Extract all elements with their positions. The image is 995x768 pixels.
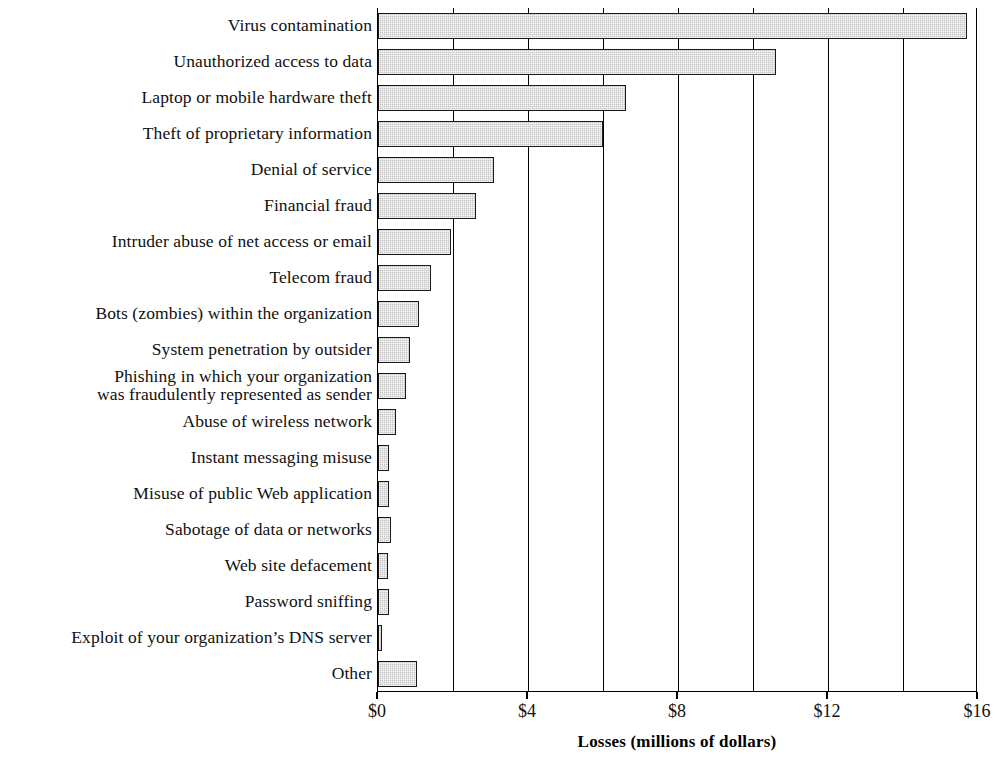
category-label: Bots (zombies) within the organization bbox=[0, 304, 372, 323]
bar bbox=[378, 661, 417, 687]
bar bbox=[378, 229, 451, 255]
category-label: Virus contamination bbox=[0, 16, 372, 35]
category-label: Sabotage of data or networks bbox=[0, 520, 372, 539]
x-tick bbox=[526, 692, 527, 699]
bar bbox=[378, 589, 389, 615]
bar bbox=[378, 193, 476, 219]
category-label: Unauthorized access to data bbox=[0, 52, 372, 71]
x-tick-label: $4 bbox=[518, 701, 536, 722]
category-label: Denial of service bbox=[0, 160, 372, 179]
category-label: Laptop or mobile hardware theft bbox=[0, 88, 372, 107]
category-label: Telecom fraud bbox=[0, 268, 372, 287]
category-label: Phishing in which your organization was … bbox=[0, 367, 372, 404]
x-tick-label: $12 bbox=[814, 701, 841, 722]
category-label: Password sniffing bbox=[0, 592, 372, 611]
category-label: Abuse of wireless network bbox=[0, 412, 372, 431]
category-label: Theft of proprietary information bbox=[0, 124, 372, 143]
x-axis-title: Losses (millions of dollars) bbox=[377, 732, 977, 752]
bar bbox=[378, 157, 494, 183]
x-tick-label: $16 bbox=[964, 701, 991, 722]
bar bbox=[378, 337, 410, 363]
x-tick bbox=[976, 692, 977, 699]
x-tick bbox=[826, 692, 827, 699]
bar bbox=[378, 13, 967, 39]
category-label: Misuse of public Web application bbox=[0, 484, 372, 503]
bar-chart: Virus contaminationUnauthorized access t… bbox=[0, 0, 995, 768]
bar bbox=[378, 265, 431, 291]
bar bbox=[378, 85, 626, 111]
bar bbox=[378, 409, 396, 435]
x-tick-label: $8 bbox=[668, 701, 686, 722]
bar bbox=[378, 517, 391, 543]
bar bbox=[378, 481, 389, 507]
category-label: Intruder abuse of net access or email bbox=[0, 232, 372, 251]
gridline bbox=[828, 8, 829, 691]
x-tick bbox=[676, 692, 677, 699]
plot-area bbox=[377, 8, 977, 692]
gridline bbox=[753, 8, 754, 691]
bar bbox=[378, 49, 776, 75]
category-label: System penetration by outsider bbox=[0, 340, 372, 359]
category-label: Instant messaging misuse bbox=[0, 448, 372, 467]
category-label: Other bbox=[0, 664, 372, 683]
bar bbox=[378, 301, 419, 327]
bar bbox=[378, 121, 603, 147]
gridline bbox=[678, 8, 679, 691]
category-label: Financial fraud bbox=[0, 196, 372, 215]
category-label: Web site defacement bbox=[0, 556, 372, 575]
bar bbox=[378, 445, 389, 471]
x-tick-label: $0 bbox=[368, 701, 386, 722]
bar bbox=[378, 373, 406, 399]
bar bbox=[378, 553, 388, 579]
bar bbox=[378, 625, 382, 651]
x-tick bbox=[376, 692, 377, 699]
gridline bbox=[903, 8, 904, 691]
category-label: Exploit of your organization’s DNS serve… bbox=[0, 628, 372, 647]
